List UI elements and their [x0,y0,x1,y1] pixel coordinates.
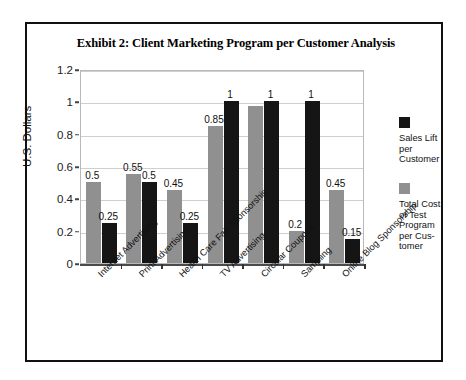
y-axis-tick-mark [75,166,79,168]
legend-entry: Sales Lift per Customer [399,117,445,165]
bar [264,101,279,263]
bar-value-label: 0.85 [204,114,223,125]
gridline [81,103,363,104]
bar-value-label: 0.15 [342,227,361,238]
bar-value-label: 0.25 [99,211,118,222]
bar-value-label: 1 [268,89,274,100]
y-axis-tick-mark [75,69,79,71]
bar [305,101,320,263]
x-axis-tick-mark [121,264,123,269]
gridline [81,71,363,72]
y-axis-tick-label: 1 [27,96,73,108]
y-axis-tick-mark [75,134,79,136]
legend-swatch [399,117,410,128]
bar-value-label: 0.2 [288,219,302,230]
y-axis-tick-label: 0 [27,258,73,270]
bar-value-label: 0.45 [326,178,345,189]
y-axis-tick-mark [75,263,79,265]
chart-plot-wrapper: U.S. Dollars 1.210.80.60.40.20 Internet … [27,24,445,364]
x-axis-tick-mark [202,264,204,269]
legend-label: Sales Lift per Customer [399,133,445,165]
bar-value-label: 1 [308,89,314,100]
x-axis-tick-mark [242,264,244,269]
x-axis-tick-mark [364,264,366,269]
y-axis-tick-label: 1.2 [27,64,73,76]
y-axis-tick-label: 0.6 [27,161,73,173]
bar-value-label: 1 [227,89,233,100]
bar-value-label: 0.5 [85,170,99,181]
bar-value-label: 0.55 [123,162,142,173]
bar-value-label: 0.5 [142,170,156,181]
y-axis-tick-mark [75,102,79,104]
y-axis-tick-label: 0.8 [27,129,73,141]
legend-swatch [399,183,410,194]
bar-value-label: 0.25 [180,211,199,222]
y-axis-tick-label: 0.2 [27,226,73,238]
bar [224,101,239,263]
y-axis-tick-mark [75,231,79,233]
exhibit-frame: Exhibit 2: Client Marketing Program per … [25,22,443,362]
x-axis-tick-mark [283,264,285,269]
bar-value-label: 0.45 [164,178,183,189]
y-axis-tick-label: 0.4 [27,193,73,205]
x-axis-line [80,264,365,266]
legend-entry: Total Cost of Test Program per Cus-tomer [399,183,445,252]
y-axis-tick-mark [75,199,79,201]
x-axis-tick-mark [323,264,325,269]
x-axis-tick-mark [161,264,163,269]
bar [86,182,101,263]
legend-label: Total Cost of Test Program per Cus-tomer [399,199,445,252]
